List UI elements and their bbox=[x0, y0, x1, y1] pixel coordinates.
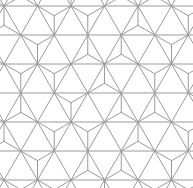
pattern-canvas: Asanoha geometric lattice Japanese hemp-… bbox=[0, 0, 193, 188]
background-rect bbox=[0, 0, 193, 188]
asanoha-pattern-svg: Asanoha geometric lattice Japanese hemp-… bbox=[0, 0, 193, 188]
